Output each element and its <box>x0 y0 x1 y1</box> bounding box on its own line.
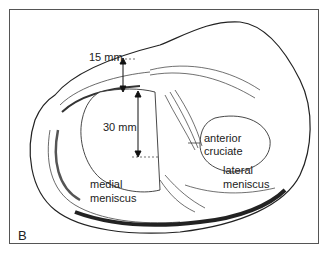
lateral-meniscus-label-line2: meniscus <box>223 178 269 190</box>
dimension-30mm-label: 30 mm <box>103 121 137 133</box>
medial-meniscus-label-line1: medial <box>90 178 122 190</box>
lateral-meniscus-label-line1: lateral <box>223 164 253 176</box>
acl-label-line1: anterior <box>204 132 241 144</box>
tibial-plateau-illustration <box>0 0 329 255</box>
medial-meniscus-label-line2: meniscus <box>90 192 136 204</box>
acl-label-line2: cruciate <box>204 145 243 157</box>
dimension-15mm-label: 15 mm <box>89 51 123 63</box>
panel-label: B <box>18 228 27 243</box>
